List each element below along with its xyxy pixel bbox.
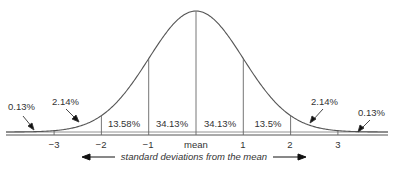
pointer-arrows — [23, 109, 370, 132]
pct-minus1-mean: 34.13% — [156, 118, 189, 129]
pct-plus2-plus3: 2.14% — [311, 96, 338, 107]
pct-right-tail: 0.13% — [358, 107, 385, 118]
tick-mean: mean — [184, 139, 208, 150]
pct-mean-plus1: 34.13% — [204, 118, 237, 129]
tick-minus3: −3 — [49, 139, 60, 150]
tick-minus1: −1 — [143, 139, 154, 150]
pct-plus1-plus2: 13.5% — [255, 118, 282, 129]
pct-left-tail: 0.13% — [8, 101, 35, 112]
pct-minus3-minus2: 2.14% — [52, 96, 79, 107]
pct-minus2-minus1: 13.58% — [108, 118, 141, 129]
tick-minus2: −2 — [96, 139, 107, 150]
sigma-lines — [54, 11, 338, 135]
tick-plus2: 2 — [287, 139, 292, 150]
axis-title: standard deviations from the mean — [121, 151, 267, 162]
tick-plus3: 3 — [335, 139, 340, 150]
tick-plus1: 1 — [240, 139, 245, 150]
normal-distribution-diagram: 0.13% 2.14% 13.58% 34.13% 34.13% 13.5% 2… — [0, 0, 394, 171]
bell-curve — [6, 11, 388, 132]
